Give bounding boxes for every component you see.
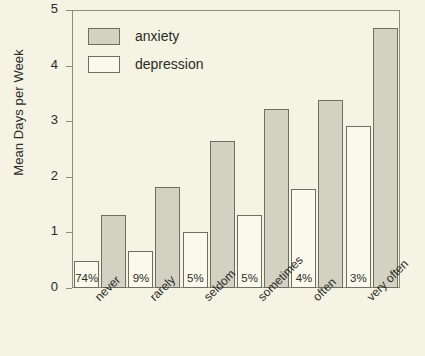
bar-value-label: 5% [184,272,207,284]
bar-anxiety [210,141,235,288]
bar-anxiety [264,109,289,288]
bar-depression: 74% [74,261,99,288]
bar-depression: 9% [128,251,153,288]
bar-depression: 3% [346,126,371,288]
bar-anxiety [318,100,343,288]
legend-label-depression: depression [135,56,204,72]
bar-anxiety [373,28,398,288]
legend-swatch-icon-depression [88,56,120,73]
y-axis-tick-label: 3 [51,112,58,127]
y-axis-tick-label: 1 [51,223,58,238]
bar-group: 5% [236,11,290,288]
bar-group: 3% [345,11,399,288]
bar-chart: Mean Days per Week 012345 74%9%5%5%4%3% … [0,0,425,356]
bar-depression: 5% [183,232,208,289]
legend-swatch-icon-anxiety [88,28,120,45]
bar-value-label: 4% [292,272,315,284]
legend-label-anxiety: anxiety [135,28,179,44]
legend-item-anxiety: anxiety [88,22,204,50]
y-axis-tick-label: 4 [51,57,58,72]
y-axis-title: Mean Days per Week [11,23,26,203]
y-axis-tick-label: 2 [51,168,58,183]
bar-value-label: 9% [129,272,152,284]
bar-depression: 5% [237,215,262,288]
chart-legend: anxiety depression [88,22,204,78]
bar-value-label: 5% [238,272,261,284]
y-axis-tick-mark [66,288,72,289]
bar-group: 4% [290,11,344,288]
y-axis-tick-label: 0 [51,279,58,294]
bar-value-label: 3% [347,272,370,284]
y-axis-tick-label: 5 [51,1,58,16]
bar-value-label: 74% [75,272,98,284]
legend-item-depression: depression [88,50,204,78]
